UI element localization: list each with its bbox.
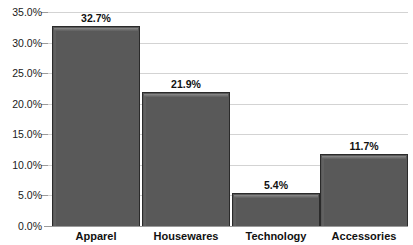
value-label-apparel: 32.7%: [52, 13, 140, 24]
category-label-accessories: Accessories: [320, 231, 408, 242]
bar-sheen: [322, 159, 324, 226]
tick-5: [41, 195, 48, 196]
bar-sheen: [234, 198, 236, 226]
bar-housewares: [142, 92, 230, 226]
bar-chart: 35.0% 30.0% 25.0% 20.0% 15.0% 10.0% 5.0%…: [0, 0, 413, 245]
plot-area: 35.0% 30.0% 25.0% 20.0% 15.0% 10.0% 5.0%…: [0, 0, 413, 245]
y-axis-label-5: 5.0%: [0, 190, 42, 201]
y-axis-label-0: 0.0%: [0, 221, 42, 232]
tick-20: [41, 104, 48, 105]
bar-highlight: [54, 28, 138, 31]
category-label-apparel: Apparel: [52, 231, 140, 242]
bar-sheen: [54, 31, 56, 226]
y-axis-label-20: 20.0%: [0, 98, 42, 109]
bar-highlight: [144, 94, 228, 97]
y-axis-label-35: 35.0%: [0, 7, 42, 18]
category-label-technology: Technology: [232, 231, 320, 242]
y-axis-label-10: 10.0%: [0, 160, 42, 171]
y-axis-label-15: 15.0%: [0, 129, 42, 140]
bar-highlight: [322, 156, 406, 159]
value-label-technology: 5.4%: [232, 180, 320, 191]
axis-baseline: [44, 226, 408, 227]
bar-apparel: [52, 26, 140, 226]
category-label-housewares: Housewares: [142, 231, 230, 242]
bar-technology: [232, 193, 320, 226]
tick-25: [41, 73, 48, 74]
tick-30: [41, 43, 48, 44]
tick-15: [41, 134, 48, 135]
value-label-housewares: 21.9%: [142, 79, 230, 90]
y-axis-label-25: 25.0%: [0, 68, 42, 79]
tick-10: [41, 165, 48, 166]
bar-sheen: [144, 97, 146, 226]
bar-highlight: [234, 195, 318, 198]
tick-35: [41, 12, 48, 13]
value-label-accessories: 11.7%: [320, 141, 408, 152]
bar-accessories: [320, 154, 408, 226]
y-axis-label-30: 30.0%: [0, 37, 42, 48]
